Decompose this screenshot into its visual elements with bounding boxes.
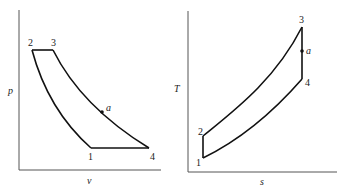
pv-state-a-label: a bbox=[106, 102, 111, 113]
pv-y-axis-label: p bbox=[7, 85, 13, 96]
ts-state-3-label: 3 bbox=[299, 14, 304, 25]
pv-process-3-4 bbox=[53, 50, 149, 148]
pv-x-axis-label: v bbox=[87, 175, 92, 186]
ts-state-4-label: 4 bbox=[305, 77, 310, 88]
ts-state-2-label: 2 bbox=[198, 126, 203, 137]
ts-state-a-label: a bbox=[306, 45, 311, 56]
ts-x-axis-label: s bbox=[260, 176, 264, 187]
ts-diagram: 1 2 3 4 a s T bbox=[174, 11, 337, 187]
thermo-cycle-diagrams: 1 2 3 4 a v p 1 2 3 4 a s T bbox=[0, 0, 346, 191]
pv-state-3-label: 3 bbox=[51, 37, 56, 48]
pv-state-2-label: 2 bbox=[28, 37, 33, 48]
pv-state-a-marker bbox=[100, 110, 104, 114]
ts-process-2-3 bbox=[203, 27, 302, 136]
pv-state-4-label: 4 bbox=[150, 151, 155, 162]
ts-state-a-marker bbox=[300, 49, 304, 53]
pv-state-1-label: 1 bbox=[88, 151, 93, 162]
ts-state-1-label: 1 bbox=[196, 157, 201, 168]
ts-y-axis-label: T bbox=[174, 83, 181, 94]
ts-process-4-1 bbox=[203, 79, 302, 158]
pv-diagram: 1 2 3 4 a v p bbox=[7, 10, 161, 186]
